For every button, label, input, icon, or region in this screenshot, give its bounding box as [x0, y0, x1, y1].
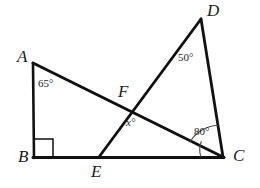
vertex-label-c: C	[233, 147, 244, 164]
angle-label-a-65: 65°	[38, 78, 53, 89]
segment-ab	[33, 63, 34, 158]
vertex-label-b: B	[18, 148, 28, 165]
segment-ed	[99, 19, 201, 157]
angle-arc-c-inner	[200, 141, 202, 157]
segment-ac	[33, 63, 223, 157]
vertex-label-d: D	[207, 2, 219, 19]
vertex-label-f: F	[118, 83, 128, 100]
right-angle-marker-b	[34, 139, 53, 157]
geometry-figure: A B C D E F 65° 50° 80° x°	[0, 0, 260, 188]
vertex-label-a: A	[17, 48, 27, 65]
vertex-label-e: E	[91, 163, 101, 180]
angle-label-f-x: x°	[126, 117, 135, 128]
angle-label-d-50: 50°	[178, 52, 193, 63]
angle-label-c-80: 80°	[194, 126, 209, 137]
geometry-canvas	[0, 0, 260, 188]
